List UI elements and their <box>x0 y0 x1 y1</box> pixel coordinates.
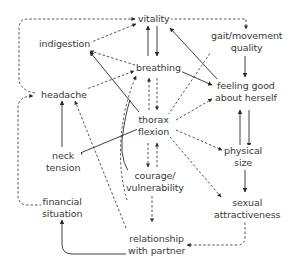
node-headache: headache <box>40 89 88 101</box>
edge-indigestion-vitality <box>89 24 136 43</box>
node-neck-tension: necktension <box>45 150 81 174</box>
edge-headache-breathing <box>84 71 134 90</box>
edge-breathing-feeling <box>178 70 212 85</box>
node-physical-size: physicalsize <box>223 145 263 169</box>
node-thorax-flexion: thoraxflexion <box>137 114 170 138</box>
node-vitality: vitality <box>137 13 171 25</box>
edge-vitality-gait <box>170 19 246 29</box>
edge-financial-headache <box>18 96 42 205</box>
edge-breathing-indigestion <box>90 51 135 65</box>
edge-sexual-relationship <box>187 218 245 245</box>
node-courage: courage/vulnerability <box>125 170 185 194</box>
edge-thorax-neck <box>78 129 138 154</box>
edge-headache-vitality <box>19 19 135 93</box>
edge-thorax-size <box>176 130 222 150</box>
edge-courage-curve <box>122 100 135 180</box>
node-breathing: breathing <box>135 62 182 74</box>
node-sexual: sexualattractiveness <box>213 197 281 221</box>
node-financial: financialsituation <box>41 196 83 220</box>
edge-thorax-feeling <box>176 99 212 120</box>
edge-thorax-indigestion <box>90 52 139 112</box>
node-feeling-good: feeling goodabout herself <box>214 80 278 104</box>
node-gait: gait/movementquality <box>210 30 284 54</box>
node-indigestion: indigestion <box>38 38 91 50</box>
node-relationship: relationshipwith partner <box>127 233 186 257</box>
edge-thorax-gait <box>168 46 215 115</box>
edge-relationship-financial <box>62 220 126 254</box>
